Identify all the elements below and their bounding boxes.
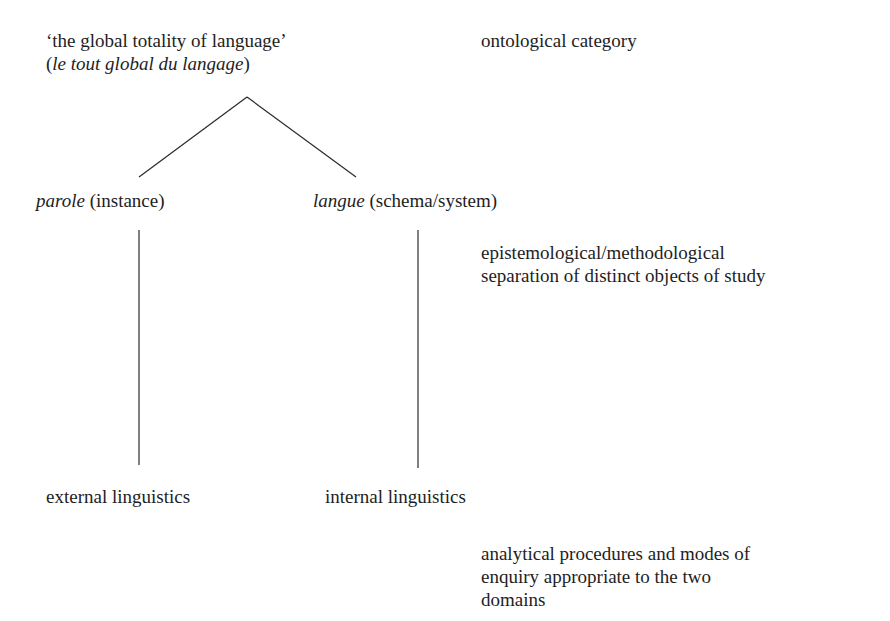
annotation-analytical: analytical procedures and modes of enqui… [481,542,750,611]
langue-term: langue [313,190,365,211]
parole-term: parole [36,190,85,211]
root-english-label: ‘the global totality of language’ [46,29,287,52]
langue-gloss: (schema/system) [365,190,497,211]
parole-gloss: (instance) [85,190,165,211]
annotation-ontological: ontological category [481,29,637,52]
branch-line-to-parole [139,97,247,177]
node-langue: langue (schema/system) [313,189,497,212]
branch-line-to-langue [247,97,356,177]
annotation-epistemological: epistemological/methodological separatio… [481,241,765,287]
node-external-linguistics: external linguistics [46,485,190,508]
root-node: ‘the global totality of language’ (le to… [46,29,287,75]
node-internal-linguistics: internal linguistics [325,485,466,508]
tree-connectors [0,0,890,621]
root-french-label: (le tout global du langage) [46,52,287,75]
node-parole: parole (instance) [36,189,165,212]
root-french-italic: le tout global du langage [52,53,243,74]
